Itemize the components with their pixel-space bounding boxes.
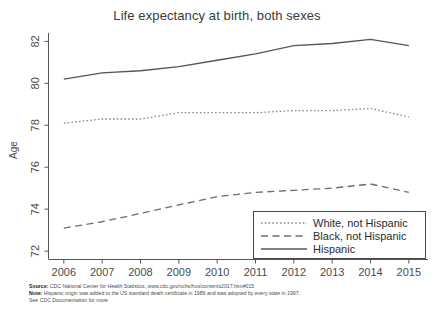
footnotes: Source: CDC National Center for Health S… — [29, 283, 429, 305]
y-tick-label: 74 — [29, 203, 41, 215]
footnote-source-label: Source: — [29, 283, 48, 289]
data-series-group — [64, 39, 409, 228]
series-line — [64, 39, 409, 79]
footnote-note: Note: Hispanic origin was added to the U… — [29, 290, 429, 297]
y-axis-ticks: 727476788082 — [29, 35, 49, 257]
x-tick-label: 2013 — [320, 266, 344, 278]
x-tick-label: 2008 — [128, 266, 152, 278]
x-tick-label: 2010 — [205, 266, 229, 278]
footnote-source-text: CDC National Center for Health Statistic… — [48, 283, 254, 289]
chart-page: Life expectancy at birth, both sexes 727… — [0, 0, 434, 317]
x-tick-label: 2007 — [90, 266, 114, 278]
legend-item-label[interactable]: Hispanic — [313, 243, 356, 255]
y-axis-title: Age — [8, 141, 19, 159]
y-tick-label: 82 — [29, 35, 41, 47]
footnote-extra: See CDC Documentation for more — [29, 297, 429, 304]
x-tick-label: 2011 — [244, 266, 268, 278]
y-tick-label: 72 — [29, 245, 41, 257]
line-chart: 727476788082 200620072008200920102011201… — [0, 0, 434, 285]
legend-item-label[interactable]: Black, not Hispanic — [313, 230, 407, 242]
y-tick-label: 78 — [29, 119, 41, 131]
footnote-source: Source: CDC National Center for Health S… — [29, 283, 429, 290]
footnote-note-text: Hispanic origin was added to the US stan… — [42, 290, 300, 296]
chart-legend[interactable]: White, not HispanicBlack, not HispanicHi… — [254, 212, 426, 259]
footnote-note-label: Note: — [29, 290, 42, 296]
y-tick-label: 76 — [29, 161, 41, 173]
x-tick-label: 2012 — [282, 266, 306, 278]
x-tick-label: 2014 — [358, 266, 382, 278]
legend-item-label[interactable]: White, not Hispanic — [313, 217, 408, 229]
x-tick-label: 2006 — [52, 266, 76, 278]
series-line — [64, 109, 409, 124]
x-tick-label: 2009 — [167, 266, 191, 278]
y-tick-label: 80 — [29, 77, 41, 89]
x-tick-label: 2015 — [397, 266, 421, 278]
x-axis-ticks: 2006200720082009201020112012201320142015 — [52, 260, 421, 278]
